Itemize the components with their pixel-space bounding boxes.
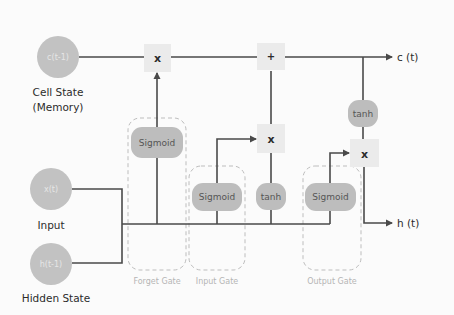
cell-state-output-label: c (t) <box>397 51 418 63</box>
input-caption: Input <box>37 219 64 231</box>
input-gate-label: Input Gate <box>196 277 238 286</box>
h-out-line <box>364 167 392 223</box>
output-tanh-label: tanh <box>353 109 373 119</box>
input-line <box>72 189 122 263</box>
forget-gate-label: Forget Gate <box>133 277 180 286</box>
hidden-state-caption: Hidden State <box>22 292 90 304</box>
hidden-output-label: h (t) <box>397 217 419 229</box>
input-sigmoid-label: Sigmoid <box>199 192 235 202</box>
output-sig-out-line <box>330 153 349 183</box>
output-sigmoid-label: Sigmoid <box>312 192 348 202</box>
cell-add-op: + <box>267 51 275 62</box>
forget-multiply-op: x <box>154 52 161 65</box>
output-gate-label: Output Gate <box>307 277 357 286</box>
cell-state-symbol: c(t-1) <box>47 53 69 62</box>
cell-state-caption-2: (Memory) <box>33 101 84 113</box>
lstm-diagram: x + x x Sigmoid Sigmoid tanh Sigmoid tan… <box>0 0 454 315</box>
input-tanh-label: tanh <box>261 192 281 202</box>
hidden-state-symbol: h(t-1) <box>40 260 62 269</box>
forget-sigmoid-label: Sigmoid <box>139 138 175 148</box>
input-multiply-op: x <box>267 133 274 146</box>
input-symbol: x(t) <box>44 185 58 194</box>
input-sig-out-line <box>217 139 256 183</box>
output-multiply-op: x <box>361 148 368 161</box>
output-gate-box <box>303 166 361 270</box>
cell-state-caption: Cell State <box>33 86 84 98</box>
